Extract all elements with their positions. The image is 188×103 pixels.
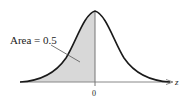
axis-label-z: z (174, 77, 179, 87)
tick-label-zero: 0 (92, 89, 96, 98)
normal-curve-figure: Area = 0.5 z 0 (0, 0, 188, 103)
area-annotation: Area = 0.5 (10, 34, 57, 46)
